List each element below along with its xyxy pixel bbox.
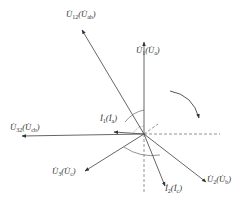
phasor-u3-label: U̇3(U̇c): [52, 167, 76, 177]
phasor-i1-arrow: [114, 132, 144, 134]
angle-arc-upper: [125, 110, 144, 122]
angle-arc-small: [133, 126, 144, 134]
phasor-u2-label: U̇2(U̇b): [207, 175, 231, 185]
rotation-direction-arrow: [170, 91, 199, 118]
phasor-i1-label: İ1(İa): [100, 114, 117, 124]
phasor-u1-label: U̇1(U̇a): [136, 46, 160, 56]
phasor-vectors: [22, 30, 206, 186]
phasor-diagram: [0, 0, 240, 204]
phasor-u32-label: U̇32(U̇cb): [10, 123, 40, 133]
phasor-u32-arrow: [22, 134, 144, 136]
phasor-i2-label: İ2(İc): [165, 184, 182, 194]
phasor-u12-label: U̇12(U̇ab): [66, 10, 96, 20]
diagonal-dashed-line: [144, 124, 158, 134]
angle-arc-lower: [124, 147, 160, 156]
